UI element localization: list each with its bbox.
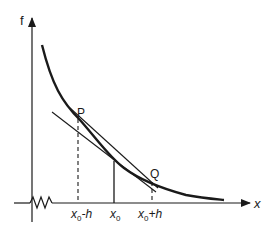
tick-label-x0-minus-h: x0-h xyxy=(70,207,92,223)
axis-break-zigzag-icon xyxy=(30,197,52,208)
svg-text:x0: x0 xyxy=(109,207,121,223)
function-curve xyxy=(42,45,224,200)
y-axis-label: f xyxy=(20,13,24,28)
derivative-approximation-diagram: f x P Q x0-h x0 x0+h xyxy=(0,0,273,234)
point-q-label: Q xyxy=(150,167,159,181)
tangent-line xyxy=(52,112,156,192)
x-axis-label: x xyxy=(253,196,261,211)
point-p-label: P xyxy=(77,106,85,120)
tick-label-x0-plus-h: x0+h xyxy=(137,207,162,223)
svg-text:x0+h: x0+h xyxy=(137,207,162,223)
svg-text:x0-h: x0-h xyxy=(70,207,92,223)
tick-label-x0: x0 xyxy=(109,207,121,223)
